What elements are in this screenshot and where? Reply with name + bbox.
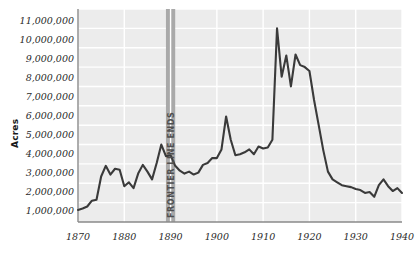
x-tick-label: 1890 [158, 232, 182, 242]
y-tick-label: 8,000,000 [26, 73, 74, 83]
x-tick-label: 1900 [205, 232, 229, 242]
y-tick-label: 1,000,000 [26, 206, 74, 216]
y-tick-label: 9,000,000 [26, 54, 74, 64]
y-tick-label: 4,000,000 [26, 149, 74, 159]
chart-figure: Acres 11,000,000 10,000,000 9,000,000 8,… [0, 0, 416, 254]
y-tick-label: 7,000,000 [26, 92, 74, 102]
x-tick-label: 1930 [344, 232, 368, 242]
y-tick-label: 11,000,000 [20, 16, 74, 26]
y-axis-tick-labels: 11,000,000 10,000,000 9,000,000 8,000,00… [0, 0, 74, 254]
y-tick-label: 10,000,000 [20, 35, 74, 45]
y-tick-label: 6,000,000 [26, 111, 74, 121]
x-tick-label: 1880 [112, 232, 136, 242]
x-tick-label: 1920 [297, 232, 321, 242]
x-tick-label: 1910 [251, 232, 275, 242]
frontier-line-ends-label: FRONTIER LINE ENDS [167, 112, 176, 218]
y-tick-label: 2,000,000 [26, 187, 74, 197]
x-tick-label: 1940 [390, 232, 414, 242]
plot-background [78, 9, 402, 222]
y-tick-label: 5,000,000 [26, 130, 74, 140]
x-tick-label: 1870 [66, 232, 90, 242]
y-tick-label: 3,000,000 [26, 168, 74, 178]
